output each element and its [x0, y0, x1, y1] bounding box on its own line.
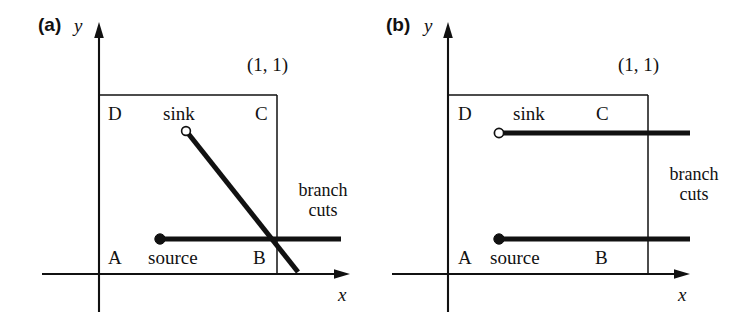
y-axis-label-b: y	[424, 16, 432, 35]
panel-b: (b) y x (1, 1) D C A B sink source branc…	[370, 0, 741, 332]
y-axis-label-a: y	[74, 16, 82, 35]
branch-cuts-label-a: branch cuts	[284, 180, 362, 220]
source-marker-a	[155, 234, 165, 244]
panel-a: (a) y x (1, 1) D C A B sink source branc…	[0, 0, 370, 332]
sink-label-a: sink	[163, 104, 195, 123]
source-label-b: source	[490, 248, 540, 267]
corner-label-d-b: D	[458, 104, 472, 123]
corner-label-b-a: B	[253, 248, 266, 267]
corner-label-a-a: A	[108, 248, 122, 267]
corner-label-c-a: C	[255, 104, 268, 123]
coord-label-b: (1, 1)	[618, 55, 659, 74]
sink-label-b: sink	[513, 104, 545, 123]
corner-label-c-b: C	[596, 104, 609, 123]
panel-a-graphic	[0, 0, 370, 332]
branch-cuts-label-b-line2: cuts	[655, 184, 733, 204]
x-axis-label-a: x	[338, 285, 346, 304]
coord-label-a: (1, 1)	[247, 55, 288, 74]
panel-tag-a: (a)	[38, 15, 61, 34]
domain-square-b	[448, 95, 648, 274]
branch-cut-sink-a	[187, 132, 298, 272]
sink-marker-a	[182, 127, 191, 136]
source-label-a: source	[148, 248, 198, 267]
branch-cuts-label-a-line2: cuts	[284, 200, 362, 220]
corner-label-a-b: A	[458, 248, 472, 267]
x-axis-label-b: x	[678, 285, 686, 304]
sink-marker-b	[494, 128, 503, 137]
branch-cuts-label-b-line1: branch	[655, 164, 733, 184]
corner-label-d-a: D	[108, 104, 122, 123]
source-marker-b	[494, 234, 504, 244]
corner-label-b-b: B	[595, 248, 608, 267]
panel-tag-b: (b)	[386, 15, 410, 34]
branch-cuts-label-b: branch cuts	[655, 164, 733, 204]
branch-cuts-label-a-line1: branch	[284, 180, 362, 200]
